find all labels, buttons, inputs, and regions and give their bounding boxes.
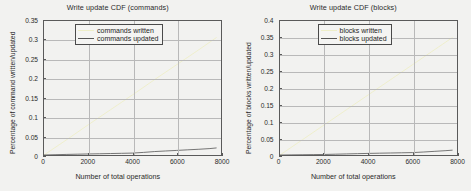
x-tick-mark [177, 153, 178, 156]
y-tick-label: 0.3 [0, 36, 38, 43]
y-tick-label: 0.1 [236, 119, 274, 126]
y-tick-label: 0.15 [236, 102, 274, 109]
y-tick-mark [43, 59, 46, 60]
chart-title-blocks: Write update CDF (blocks) [236, 3, 471, 12]
legend-line-icon-blocks-written [321, 30, 337, 31]
gridline-horizontal [44, 99, 221, 100]
legend-blocks: blocks written blocks updated [318, 24, 392, 45]
gridline-horizontal [280, 106, 457, 107]
chart-panel-blocks: Write update CDF (blocks) Percentage of … [236, 0, 471, 191]
x-tick-label: 6000 [405, 158, 420, 165]
y-tick-label: 0.35 [0, 17, 38, 24]
y-tick-mark [279, 122, 282, 123]
x-tick-mark [279, 153, 280, 156]
y-tick-mark [43, 117, 46, 118]
y-tick-mark [43, 98, 46, 99]
y-tick-label: 0.1 [0, 114, 38, 121]
y-tick-label: 0 [0, 153, 38, 160]
y-tick-label: 0 [236, 153, 274, 160]
x-tick-mark [458, 153, 459, 156]
gridline-horizontal [44, 79, 221, 80]
legend-label-blocks-updated: blocks updated [340, 35, 387, 42]
chart-title-commands: Write update CDF (commands) [0, 3, 236, 12]
legend-label-blocks-written: blocks written [340, 27, 382, 34]
gridline-horizontal [280, 123, 457, 124]
x-tick-mark [368, 153, 369, 156]
x-tick-mark [133, 153, 134, 156]
gridline-horizontal [44, 118, 221, 119]
x-tick-label: 8000 [215, 158, 230, 165]
gridline-horizontal [280, 140, 457, 141]
legend-item-commands-written: commands written [78, 27, 158, 34]
x-tick-mark [43, 153, 44, 156]
y-tick-mark [43, 156, 46, 157]
figure-container: Write update CDF (commands) Percentage o… [0, 0, 471, 191]
legend-label-commands-written: commands written [97, 27, 154, 34]
y-tick-label: 0.3 [236, 51, 274, 58]
legend-line-icon-commands-written [78, 30, 94, 31]
x-tick-label: 4000 [361, 158, 376, 165]
legend-item-blocks-updated: blocks updated [321, 35, 387, 42]
x-tick-label: 0 [41, 158, 45, 165]
y-tick-mark [43, 78, 46, 79]
y-tick-mark [279, 37, 282, 38]
x-tick-mark [88, 153, 89, 156]
gridline-vertical [178, 21, 179, 155]
x-tick-label: 8000 [450, 158, 465, 165]
gridline-horizontal [280, 55, 457, 56]
series-line-blocks-updated [280, 150, 453, 155]
x-tick-label: 0 [277, 158, 281, 165]
gridline-horizontal [280, 89, 457, 90]
gridline-horizontal [44, 138, 221, 139]
y-tick-mark [43, 137, 46, 138]
y-tick-mark [43, 20, 46, 21]
x-tick-label: 4000 [125, 158, 140, 165]
x-tick-mark [222, 153, 223, 156]
legend-label-commands-updated: commands updated [97, 35, 158, 42]
x-tick-label: 6000 [170, 158, 185, 165]
y-tick-mark [279, 105, 282, 106]
x-tick-label: 2000 [80, 158, 95, 165]
y-tick-label: 0.4 [236, 17, 274, 24]
y-tick-mark [279, 20, 282, 21]
x-tick-mark [323, 153, 324, 156]
x-tick-label: 2000 [316, 158, 331, 165]
y-tick-mark [43, 39, 46, 40]
y-tick-label: 0.2 [0, 75, 38, 82]
y-tick-label: 0.05 [0, 133, 38, 140]
chart-panel-commands: Write update CDF (commands) Percentage o… [0, 0, 236, 191]
y-tick-label: 0.05 [236, 136, 274, 143]
x-axis-label-blocks: Number of total operations [236, 172, 471, 181]
y-tick-label: 0.25 [236, 68, 274, 75]
gridline-horizontal [280, 72, 457, 73]
legend-commands: commands written commands updated [75, 24, 163, 45]
y-tick-label: 0.35 [236, 34, 274, 41]
y-tick-label: 0.2 [236, 85, 274, 92]
legend-line-icon-commands-updated [78, 38, 94, 39]
y-tick-mark [279, 139, 282, 140]
legend-item-blocks-written: blocks written [321, 27, 387, 34]
x-tick-mark [413, 153, 414, 156]
x-axis-label-commands: Number of total operations [0, 172, 236, 181]
legend-item-commands-updated: commands updated [78, 35, 158, 42]
series-line-commands-updated [44, 148, 217, 155]
y-tick-label: 0.15 [0, 94, 38, 101]
y-tick-label: 0.25 [0, 55, 38, 62]
gridline-horizontal [44, 60, 221, 61]
gridline-vertical [414, 21, 415, 155]
y-tick-mark [279, 71, 282, 72]
y-tick-mark [279, 156, 282, 157]
legend-line-icon-blocks-updated [321, 38, 337, 39]
y-tick-mark [279, 54, 282, 55]
y-tick-mark [279, 88, 282, 89]
